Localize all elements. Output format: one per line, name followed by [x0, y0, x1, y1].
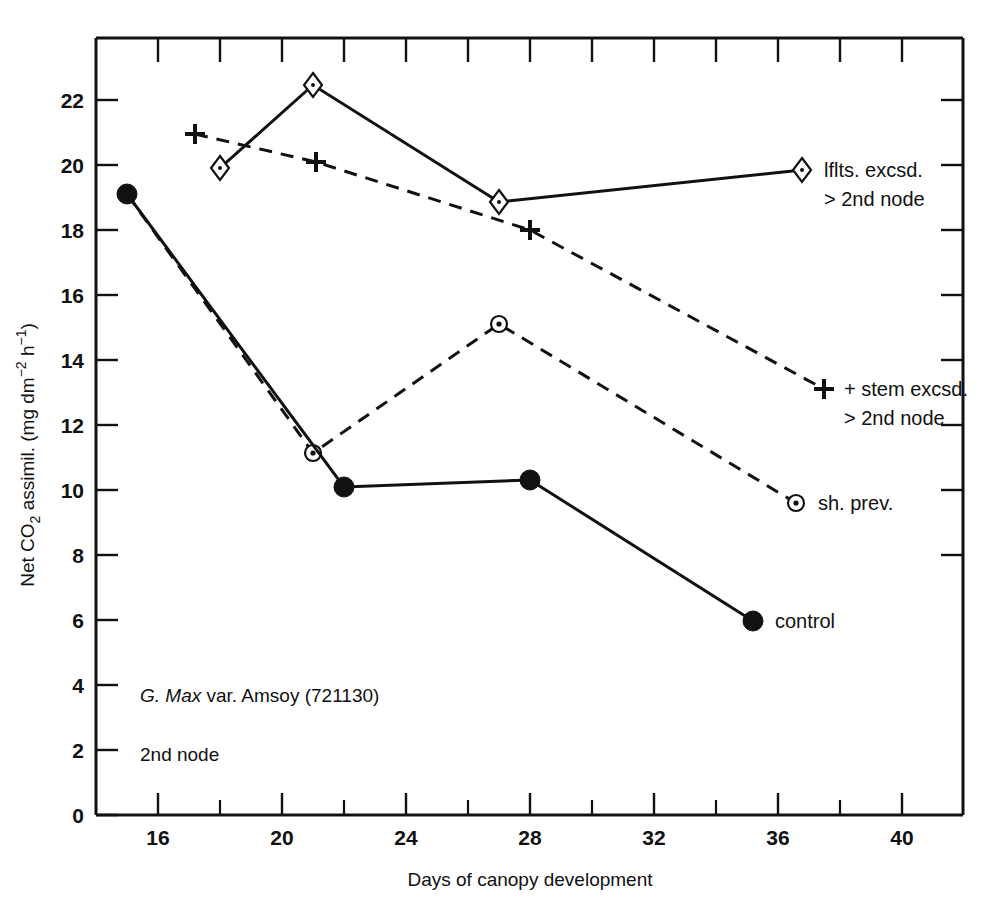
y-tick-label: 10: [61, 479, 84, 502]
x-tick-label: 20: [270, 826, 293, 849]
series-stem-excsd: [185, 124, 834, 399]
y-tick-label: 16: [61, 284, 84, 307]
legend-control[interactable]: control: [775, 610, 835, 632]
y-axis-title-tail: ): [17, 323, 38, 329]
y-tick-label: 6: [72, 609, 84, 632]
series-control: [117, 184, 763, 631]
right-axis-ticks: [941, 100, 963, 555]
legend-sh-prev[interactable]: sh. prev.: [818, 492, 893, 514]
x-tick-label: 16: [146, 826, 169, 849]
y-axis-title: Net CO2 assimil. (mg dm−2 h−1): [13, 323, 43, 587]
series-stem-excsd-line: [195, 134, 824, 389]
legend-label-control: control: [775, 610, 835, 632]
plus-marker: [306, 152, 326, 172]
x-tick-label: 40: [890, 826, 913, 849]
filled-circle-marker: [334, 477, 354, 497]
x-axis-major-ticks: [158, 793, 902, 815]
y-axis-title-lead: Net CO: [17, 523, 38, 586]
svg-text:Net CO2 assimil. (mg dm−2 h−1): Net CO2 assimil. (mg dm−2 h−1): [13, 323, 43, 587]
series-control-line: [127, 194, 753, 621]
filled-circle-marker: [520, 470, 540, 490]
legend-label-lflts-line2: > 2nd node: [824, 188, 925, 210]
y-axis-title-mid: assimil. (mg dm: [17, 377, 38, 515]
series-lflts-excsd: [211, 73, 811, 214]
y-tick-label: 18: [61, 219, 85, 242]
x-tick-label: 24: [394, 826, 418, 849]
annotation-node: 2nd node: [140, 744, 219, 765]
y-axis-title-mid2: h: [17, 346, 38, 362]
y-tick-label: 12: [61, 414, 84, 437]
x-axis-title: Days of canopy development: [407, 869, 653, 890]
legend-stem-excsd[interactable]: + stem excsd. > 2nd node: [844, 378, 968, 429]
plus-marker: [520, 220, 540, 240]
y-tick-label: 14: [61, 349, 85, 372]
y-tick-label: 4: [72, 674, 84, 697]
y-tick-label: 8: [72, 544, 84, 567]
series-sh-prev: [127, 194, 804, 511]
annotation-cultivar-species: G. Max: [140, 685, 203, 706]
series-sh-prev-markers: [305, 316, 804, 511]
y-tick-labels: 0 2 4 6 8 10 12 14 16 18 20 22: [61, 89, 85, 827]
series-stem-excsd-markers: [185, 124, 834, 399]
y-axis-title-sup2: −1: [13, 329, 29, 345]
co2-assimilation-line-chart: 16 20 24 28 32 36 40: [0, 0, 990, 907]
x-tick-label: 28: [518, 826, 542, 849]
legend-label-stem-line2: > 2nd node: [844, 407, 945, 429]
x-tick-labels: 16 20 24 28 32 36 40: [146, 826, 913, 849]
legend-label-lflts-line1: lflts. excsd.: [824, 159, 923, 181]
x-tick-label: 36: [766, 826, 789, 849]
y-axis-title-sup1: −2: [13, 361, 29, 377]
legend-label-stem-line1: + stem excsd.: [844, 378, 968, 400]
y-tick-label: 0: [72, 804, 84, 827]
y-tick-label: 20: [61, 154, 84, 177]
annotation-cultivar: G. Max var. Amsoy (721130): [140, 685, 379, 706]
plus-marker: [185, 124, 205, 144]
y-axis-title-sub1: 2: [27, 515, 43, 523]
annotation-cultivar-rest: var. Amsoy (721130): [201, 685, 379, 706]
y-axis-ticks: [96, 100, 118, 815]
top-axis-ticks: [158, 38, 902, 62]
y-tick-label: 2: [72, 739, 84, 762]
legend-lflts-excsd[interactable]: lflts. excsd. > 2nd node: [824, 159, 925, 210]
x-tick-label: 32: [642, 826, 665, 849]
y-tick-label: 22: [61, 89, 84, 112]
series-sh-prev-line: [127, 194, 796, 503]
figure-root: 16 20 24 28 32 36 40: [0, 0, 990, 907]
series-lflts-excsd-line: [220, 85, 802, 202]
plus-marker: [814, 379, 834, 399]
series-control-markers: [117, 184, 763, 631]
filled-circle-marker: [117, 184, 137, 204]
filled-circle-marker: [743, 611, 763, 631]
legend-label-sh-prev: sh. prev.: [818, 492, 893, 514]
